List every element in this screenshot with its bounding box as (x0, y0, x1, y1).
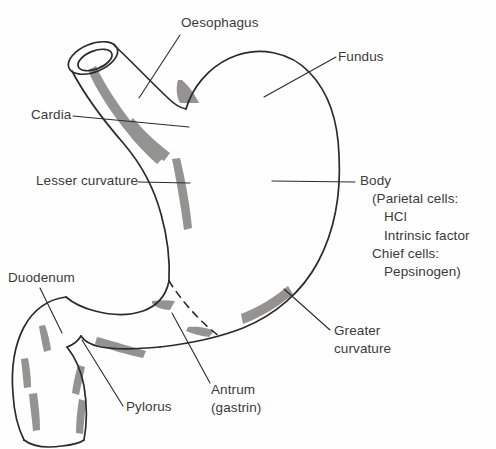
pylorus-junction (67, 336, 81, 347)
leader-line-oesophagus (139, 35, 180, 98)
label-lesser-curvature: Lesser curvature (36, 172, 138, 190)
duodenum-shading-mark-3 (29, 393, 40, 431)
label-fundus: Fundus (338, 48, 384, 66)
label-greater-curvature-block: Greater curvature (334, 322, 391, 358)
label-body-chief-cells: Chief cells: (360, 245, 470, 263)
label-antrum-line2: (gastrin) (211, 399, 261, 417)
label-oesophagus: Oesophagus (181, 14, 259, 32)
leader-line-group (40, 35, 355, 406)
stomach-diagram-figure: Oesophagus Fundus Cardia Lesser curvatur… (0, 0, 496, 449)
antrum-upper-wall (66, 281, 169, 314)
label-body: Body (360, 172, 470, 190)
label-duodenum: Duodenum (8, 269, 75, 287)
greater-curvature-shading-mark (241, 286, 293, 324)
label-antrum-line1: Antrum (211, 381, 261, 399)
label-body-intrinsic-factor: Intrinsic factor (360, 227, 470, 245)
label-cardia: Cardia (31, 106, 71, 124)
duodenum-shading-mark-1 (39, 325, 51, 352)
label-body-block: Body (Parietal cells: HCl Intrinsic fact… (360, 172, 470, 281)
lesser-curvature-shading-mark (172, 158, 192, 230)
fundus-shading-mark (177, 80, 199, 103)
label-body-pepsinogen: Pepsinogen) (360, 263, 470, 281)
antrum-shading-mark-middle (186, 327, 214, 337)
leader-line-body (272, 181, 355, 182)
label-greater-curvature-line2: curvature (334, 340, 391, 358)
oesophagus-upper-wall (114, 45, 186, 109)
label-antrum-block: Antrum (gastrin) (211, 381, 261, 417)
leader-line-greater-curvature (284, 289, 330, 330)
label-pylorus: Pylorus (126, 398, 172, 416)
duodenum-shading-mark-5 (76, 399, 86, 434)
label-greater-curvature-line1: Greater (334, 322, 391, 340)
duodenum-shading-mark-2 (21, 358, 31, 388)
label-body-parietal-cells: (Parietal cells: (360, 190, 470, 208)
label-body-hcl: HCl (360, 208, 470, 226)
duodenum-bottom-curve (24, 440, 84, 447)
organ-outline-group (12, 35, 339, 447)
